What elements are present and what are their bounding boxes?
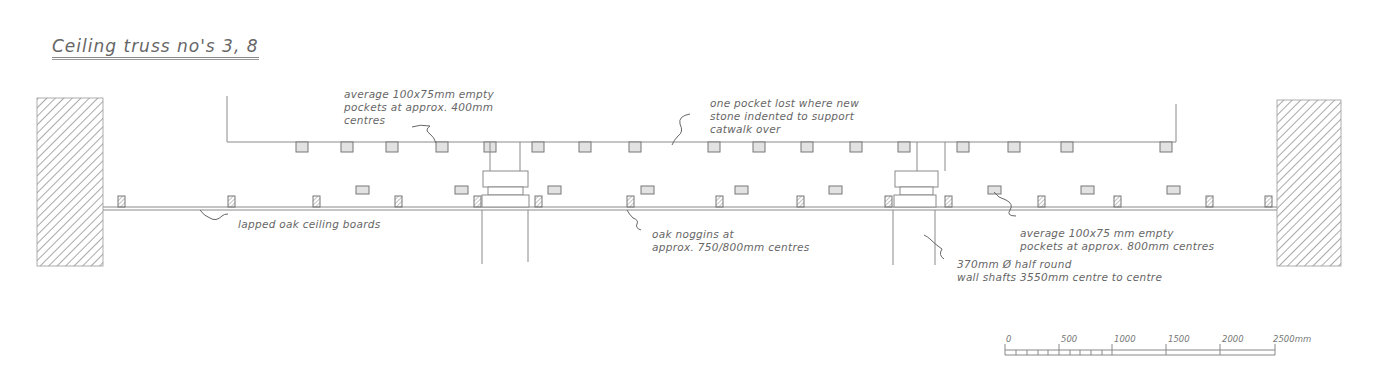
lower-pockets [356, 186, 1180, 194]
scale-label-500: 500 [1061, 334, 1077, 344]
noggin [118, 196, 125, 207]
top-pocket [386, 142, 398, 152]
top-pocket [341, 142, 353, 152]
wall-shaft-2 [893, 142, 945, 265]
lower-pocket [829, 186, 842, 194]
scale-label-1500: 1500 [1168, 334, 1190, 344]
lower-pocket [548, 186, 561, 194]
scale-bar [1005, 344, 1275, 355]
top-pocket [850, 142, 862, 152]
note-wall-shafts: 370mm Ø half round wall shafts 3550mm ce… [957, 258, 1162, 284]
top-pocket [1008, 142, 1020, 152]
top-pocket [898, 142, 910, 152]
note-noggins: oak noggins at approx. 750/800mm centres [652, 228, 810, 254]
noggin [716, 196, 723, 207]
note-pocket-lost: one pocket lost where new stone indented… [710, 97, 859, 136]
top-pocket [708, 142, 720, 152]
top-pockets [296, 142, 1172, 152]
top-pocket [629, 142, 641, 152]
wall-shaft-1 [482, 142, 529, 264]
noggin [474, 196, 481, 207]
noggin [395, 196, 402, 207]
noggin [797, 196, 804, 207]
noggin [945, 196, 952, 207]
right-wall [1277, 100, 1341, 266]
note-ceiling-boards: lapped oak ceiling boards [238, 218, 381, 231]
note-top-pockets: average 100x75mm empty pockets at approx… [344, 88, 494, 127]
noggin [535, 196, 542, 207]
drawing-title: Ceiling truss no's 3, 8 [52, 36, 259, 58]
oak-noggins [118, 196, 1272, 207]
lower-pocket [1167, 186, 1180, 194]
top-pocket [532, 142, 544, 152]
noggin [313, 196, 320, 207]
scale-label-1000: 1000 [1114, 334, 1136, 344]
note-lower-pockets: average 100x75 mm empty pockets at appro… [1020, 227, 1214, 253]
top-pocket [957, 142, 969, 152]
noggin [228, 196, 235, 207]
left-wall [37, 98, 103, 266]
scale-label-2500: 2500mm [1273, 334, 1311, 344]
scale-label-0: 0 [1006, 334, 1011, 344]
lower-pocket [641, 186, 654, 194]
top-pocket [296, 142, 308, 152]
top-pocket [1061, 142, 1073, 152]
top-pocket [801, 142, 813, 152]
lower-pocket [1081, 186, 1094, 194]
lower-pocket [735, 186, 748, 194]
noggin [1114, 196, 1121, 207]
noggin [627, 196, 634, 207]
scale-label-2000: 2000 [1222, 334, 1244, 344]
ceiling-boards [103, 207, 1277, 210]
noggin [885, 196, 892, 207]
top-pocket [436, 142, 448, 152]
noggin [1038, 196, 1045, 207]
noggin [1265, 196, 1272, 207]
noggin [1206, 196, 1213, 207]
lower-pocket [356, 186, 369, 194]
lower-pocket [455, 186, 468, 194]
leader-lines [200, 114, 1016, 259]
top-pocket [579, 142, 591, 152]
top-pocket [753, 142, 765, 152]
top-pocket [1160, 142, 1172, 152]
